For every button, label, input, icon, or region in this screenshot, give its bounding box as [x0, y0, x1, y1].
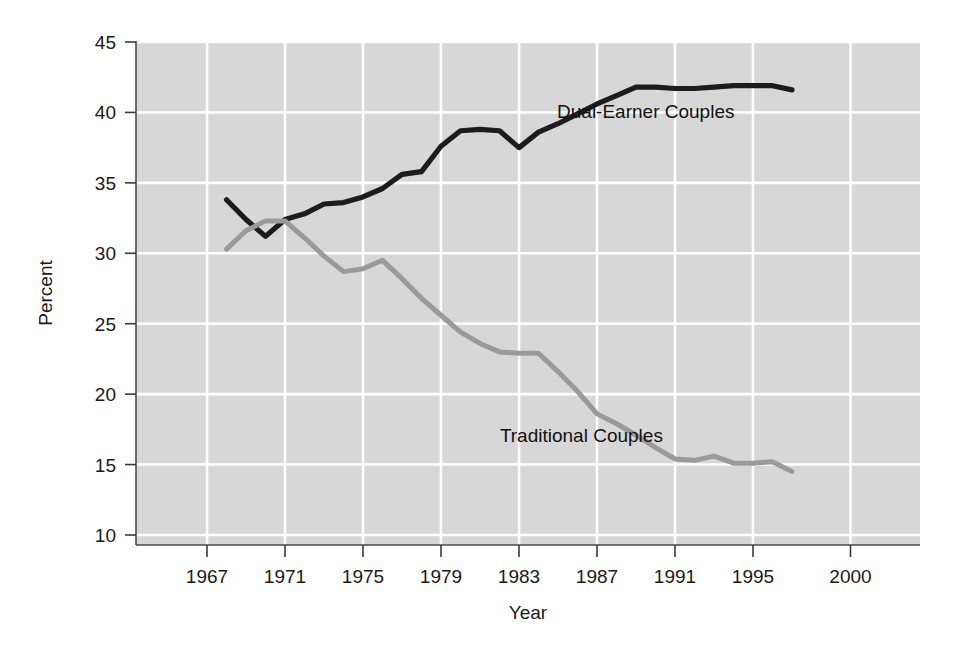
plot-area-background [136, 41, 920, 545]
x-tick-label: 1975 [342, 566, 384, 587]
x-axis-title: Year [509, 602, 548, 623]
x-tick-label: 1987 [576, 566, 618, 587]
y-tick-label: 40 [95, 102, 116, 123]
y-tick-label: 10 [95, 525, 116, 546]
y-tick-label: 30 [95, 243, 116, 264]
series-annotation-label: Dual-Earner Couples [557, 101, 734, 122]
x-tick-label: 1995 [732, 566, 774, 587]
y-tick-label: 35 [95, 173, 116, 194]
x-tick-label: 1967 [186, 566, 228, 587]
y-tick-label: 25 [95, 314, 116, 335]
x-tick-label: 1991 [654, 566, 696, 587]
y-axis-title: Percent [35, 260, 56, 326]
series-annotation-label: Traditional Couples [500, 425, 663, 446]
line-chart: 4540353025201510 19671971197519791983198… [0, 0, 966, 651]
y-tick-label: 45 [95, 32, 116, 53]
x-axis-tick-labels: 196719711975197919831987199119952000 [186, 566, 872, 587]
x-tick-label: 1983 [498, 566, 540, 587]
y-tick-label: 20 [95, 384, 116, 405]
x-tick-label: 1971 [264, 566, 306, 587]
x-tick-label: 1979 [420, 566, 462, 587]
x-tick-label: 2000 [829, 566, 871, 587]
y-tick-label: 15 [95, 455, 116, 476]
